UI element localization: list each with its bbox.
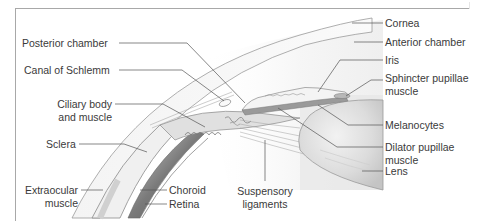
label-canal-of-schlemm: Canal of Schlemm	[24, 64, 110, 77]
label-lens: Lens	[385, 165, 408, 178]
label-ciliary-body-line1: Ciliary body	[52, 98, 112, 111]
label-sclera: Sclera	[46, 138, 76, 151]
label-ciliary-body-line2: and muscle	[52, 111, 112, 124]
label-suspensory-ligaments: Suspensory ligaments	[233, 185, 297, 210]
label-dilator-line1: Dilator pupillae	[385, 141, 454, 154]
label-suspensory-ligaments-line1: Suspensory	[233, 185, 297, 198]
label-extraocular-muscle-line1: Extraocular	[20, 184, 78, 197]
label-iris: Iris	[385, 54, 399, 67]
label-extraocular-muscle-line2: muscle	[20, 197, 78, 210]
label-cornea: Cornea	[385, 17, 419, 30]
label-posterior-chamber: Posterior chamber	[22, 37, 108, 50]
label-choroid: Choroid	[169, 184, 206, 197]
label-dilator-pupillae-muscle: Dilator pupillae muscle	[385, 141, 454, 166]
label-sphincter-line2: muscle	[385, 85, 468, 98]
label-suspensory-ligaments-line2: ligaments	[233, 198, 297, 211]
label-melanocytes: Melanocytes	[385, 119, 444, 132]
label-ciliary-body: Ciliary body and muscle	[52, 98, 112, 123]
label-anterior-chamber: Anterior chamber	[385, 36, 466, 49]
label-sphincter-pupillae-muscle: Sphincter pupillae muscle	[385, 72, 468, 97]
label-extraocular-muscle: Extraocular muscle	[20, 184, 78, 209]
label-sphincter-line1: Sphincter pupillae	[385, 72, 468, 85]
label-retina: Retina	[169, 198, 199, 211]
